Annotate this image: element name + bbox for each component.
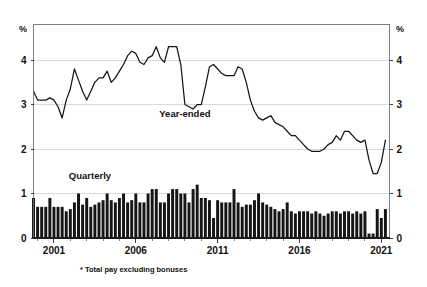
bar: [372, 234, 375, 238]
series-annotation-year-ended: Year-ended: [159, 108, 210, 119]
y-axis-label-left-0: 0: [21, 233, 27, 244]
bar: [85, 198, 88, 238]
bar: [44, 207, 47, 238]
bar: [368, 234, 371, 238]
bar: [114, 202, 117, 238]
bar: [282, 209, 285, 238]
bar: [36, 207, 39, 238]
bar: [69, 209, 72, 238]
bar: [224, 202, 227, 238]
bar: [143, 202, 146, 238]
y-axis-label-left-1: 1: [21, 188, 27, 199]
bar: [192, 189, 195, 238]
bar: [237, 202, 240, 238]
bar: [183, 194, 186, 238]
y-axis-label-right-1: 1: [397, 188, 403, 199]
bar: [138, 202, 141, 238]
x-axis-label-2021: 2021: [370, 245, 393, 256]
bar: [216, 200, 219, 238]
bar: [318, 214, 321, 238]
bar: [323, 216, 326, 238]
bar: [89, 207, 92, 238]
bar: [314, 211, 317, 238]
bar: [159, 202, 162, 238]
bar: [208, 200, 211, 238]
bar: [52, 207, 55, 238]
bar: [171, 189, 174, 238]
bar: [48, 198, 51, 238]
bar: [347, 211, 350, 238]
bar: [335, 211, 338, 238]
bar: [384, 209, 387, 238]
bar: [163, 202, 166, 238]
x-axis-label-2011: 2011: [207, 245, 229, 256]
bar: [327, 214, 330, 238]
bar: [61, 207, 64, 238]
bar: [306, 211, 309, 238]
bar: [363, 211, 366, 238]
bar: [126, 202, 129, 238]
bar: [359, 214, 362, 238]
bar: [77, 194, 80, 238]
y-axis-label-right-0: 0: [397, 233, 403, 244]
bar: [273, 209, 276, 238]
bar: [245, 205, 248, 238]
bar: [110, 200, 113, 238]
bar: [380, 218, 383, 238]
bar: [130, 200, 133, 238]
bar: [167, 194, 170, 238]
bar: [102, 200, 105, 238]
bar: [257, 194, 260, 238]
bar: [200, 198, 203, 238]
bar: [65, 211, 68, 238]
bar: [175, 189, 178, 238]
bar: [298, 211, 301, 238]
bar: [376, 209, 379, 238]
y-axis-label-left-3: 3: [21, 99, 27, 110]
chart-footnote: * Total pay excluding bonuses: [80, 265, 187, 274]
series-annotation-quarterly: Quarterly: [69, 170, 112, 181]
y-axis-right-unit-label: %: [396, 24, 404, 34]
bar: [57, 207, 60, 238]
y-axis-label-right-4: 4: [397, 55, 403, 66]
bar: [81, 205, 84, 238]
bar: [331, 211, 334, 238]
bar: [179, 194, 182, 238]
bar: [212, 218, 215, 238]
bar: [253, 200, 256, 238]
y-axis-left-unit-label: %: [19, 24, 27, 34]
y-axis-label-left-4: 4: [21, 55, 27, 66]
bar: [147, 194, 150, 238]
bar: [351, 214, 354, 238]
bar: [241, 207, 244, 238]
bar: [302, 211, 305, 238]
bar: [73, 202, 76, 238]
bar: [278, 211, 281, 238]
bar: [118, 198, 121, 238]
bar: [261, 202, 264, 238]
bar: [294, 214, 297, 238]
bar: [249, 205, 252, 238]
bar: [343, 211, 346, 238]
bar: [155, 189, 158, 238]
bar: [355, 211, 358, 238]
bar: [286, 202, 289, 238]
bar: [40, 207, 43, 238]
bar: [310, 214, 313, 238]
bar: [98, 202, 101, 238]
chart-canvas: 01234 01234 20012006201120162021 % % Yea…: [0, 0, 427, 287]
bar: [204, 198, 207, 238]
bar: [339, 214, 342, 238]
bar: [228, 202, 231, 238]
x-axis-label-2016: 2016: [288, 245, 311, 256]
bar: [122, 194, 125, 238]
bar: [93, 205, 96, 238]
bar: [151, 189, 154, 238]
chart-figure: 01234 01234 20012006201120162021 % % Yea…: [0, 0, 427, 287]
bar: [290, 211, 293, 238]
bar: [106, 194, 109, 238]
bar: [269, 207, 272, 238]
figure-background: [0, 0, 427, 287]
bar: [188, 202, 191, 238]
y-axis-label-left-2: 2: [21, 144, 27, 155]
